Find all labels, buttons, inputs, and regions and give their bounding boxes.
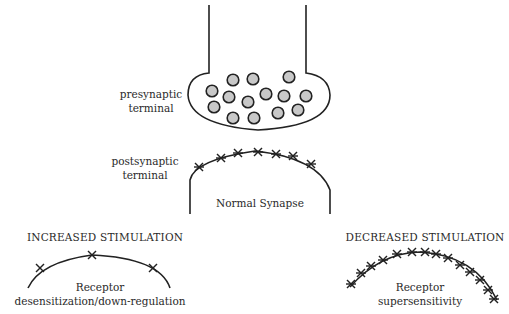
receptor-icon bbox=[194, 163, 204, 171]
decreased-stimulation-title: DECREASED STIMULATION bbox=[345, 230, 505, 244]
presynaptic-label-line2: terminal bbox=[106, 101, 196, 115]
receptor-icon bbox=[392, 250, 402, 258]
receptor-icon bbox=[271, 150, 281, 158]
receptor-icon bbox=[475, 276, 485, 284]
receptor-icon bbox=[489, 295, 499, 303]
postsynaptic-label-line2: terminal bbox=[100, 168, 190, 182]
increased-stimulation-caption: Receptor desensitization/down-regulation bbox=[0, 280, 200, 308]
receptor-icon bbox=[465, 268, 475, 276]
vesicle bbox=[223, 91, 235, 103]
synapse-diagram bbox=[0, 0, 509, 314]
receptor-icon bbox=[378, 256, 388, 264]
vesicle bbox=[260, 88, 272, 100]
normal-synapse-label: Normal Synapse bbox=[200, 196, 320, 210]
postsynaptic-label-line1: postsynaptic bbox=[100, 154, 190, 168]
presynaptic-label-line1: presynaptic bbox=[106, 87, 196, 101]
vesicle bbox=[242, 96, 254, 108]
vesicle bbox=[283, 71, 295, 83]
vesicle bbox=[208, 101, 220, 113]
receptor-icon bbox=[483, 286, 493, 294]
increased-stimulation-title: INCREASED STIMULATION bbox=[20, 230, 190, 244]
decreased-stimulation-caption: Receptor supersensitivity bbox=[370, 280, 470, 308]
vesicle bbox=[292, 104, 304, 116]
receptor-icon bbox=[216, 154, 226, 162]
decreased-caption-line1: Receptor bbox=[370, 280, 470, 294]
receptor-icon bbox=[233, 149, 243, 157]
vesicle bbox=[247, 73, 259, 85]
receptor-icon bbox=[407, 248, 417, 256]
presynaptic-label: presynaptic terminal bbox=[106, 87, 196, 115]
increased-caption-line1: Receptor bbox=[0, 280, 200, 294]
receptor-icon bbox=[149, 264, 157, 272]
vesicle bbox=[227, 74, 239, 86]
decreased-caption-line2: supersensitivity bbox=[370, 294, 470, 308]
receptor-icon bbox=[431, 250, 441, 258]
vesicle bbox=[272, 107, 284, 119]
vesicle bbox=[278, 90, 290, 102]
vesicle bbox=[206, 85, 218, 97]
receptor-icon bbox=[443, 254, 453, 262]
synaptic-vesicles bbox=[206, 71, 312, 124]
vesicle bbox=[248, 112, 260, 124]
receptor-icon bbox=[36, 264, 44, 272]
vesicle bbox=[227, 112, 239, 124]
increased-caption-line2: desensitization/down-regulation bbox=[0, 294, 200, 308]
receptor-icon bbox=[420, 248, 430, 256]
receptor-icon bbox=[253, 148, 263, 156]
postsynaptic-label: postsynaptic terminal bbox=[100, 154, 190, 182]
vesicle bbox=[300, 90, 312, 102]
